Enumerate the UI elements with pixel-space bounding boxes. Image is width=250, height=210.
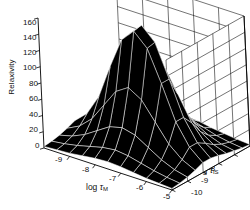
figure-3d-surface-plot: Relaxivity 160 140 120 100 80 60 40 20 0… [0, 0, 250, 210]
surface-plot-canvas [0, 0, 250, 210]
